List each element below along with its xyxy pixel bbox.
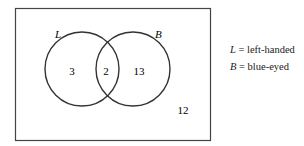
venn-diagram: L B 3 2 13 12 bbox=[0, 0, 304, 146]
count-outside: 12 bbox=[178, 104, 189, 116]
count-b-only: 13 bbox=[134, 65, 146, 77]
legend-text: = left-handed bbox=[236, 44, 295, 55]
legend-item-l: L = left-handed bbox=[230, 44, 295, 55]
count-intersection: 2 bbox=[103, 65, 109, 77]
label-l: L bbox=[54, 28, 61, 40]
count-l-only: 3 bbox=[69, 65, 75, 77]
legend-item-b: B = blue-eyed bbox=[230, 61, 289, 72]
label-b: B bbox=[155, 28, 162, 40]
legend-text: = blue-eyed bbox=[236, 61, 289, 72]
